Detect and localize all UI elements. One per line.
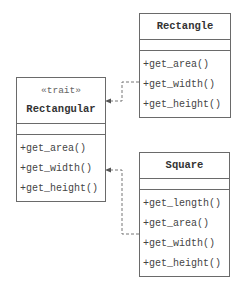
method-item: +get_area() [143, 55, 230, 75]
method-item: +get_height() [143, 95, 230, 115]
methods-section: +get_length() +get_area() +get_width() +… [140, 190, 229, 274]
class-header: Square [140, 153, 229, 179]
class-rectangular[interactable]: «trait» Rectangular +get_area() +get_wid… [16, 77, 106, 202]
connector-rectangle-to-rectangular [108, 82, 139, 101]
method-item: +get_height() [143, 254, 229, 274]
connector-square-to-rectangular [108, 170, 139, 234]
class-square[interactable]: Square +get_length() +get_area() +get_wi… [139, 152, 230, 277]
method-item: +get_width() [20, 159, 105, 179]
method-item: +get_height() [20, 179, 105, 199]
method-item: +get_width() [143, 75, 230, 95]
method-item: +get_length() [143, 194, 229, 214]
method-item: +get_area() [20, 139, 105, 159]
class-header: Rectangle [140, 14, 230, 40]
class-name: Rectangular [17, 97, 105, 116]
class-rectangle[interactable]: Rectangle +get_area() +get_width() +get_… [139, 13, 231, 118]
methods-section: +get_area() +get_width() +get_height() [17, 135, 105, 199]
method-item: +get_area() [143, 214, 229, 234]
stereotype-label: «trait» [17, 78, 105, 97]
methods-section: +get_area() +get_width() +get_height() [140, 51, 230, 115]
attributes-section [140, 179, 229, 190]
attributes-section [140, 40, 230, 51]
class-header: «trait» Rectangular [17, 78, 105, 124]
class-name: Square [140, 158, 229, 172]
class-name: Rectangle [140, 19, 230, 33]
method-item: +get_width() [143, 234, 229, 254]
attributes-section [17, 124, 105, 135]
